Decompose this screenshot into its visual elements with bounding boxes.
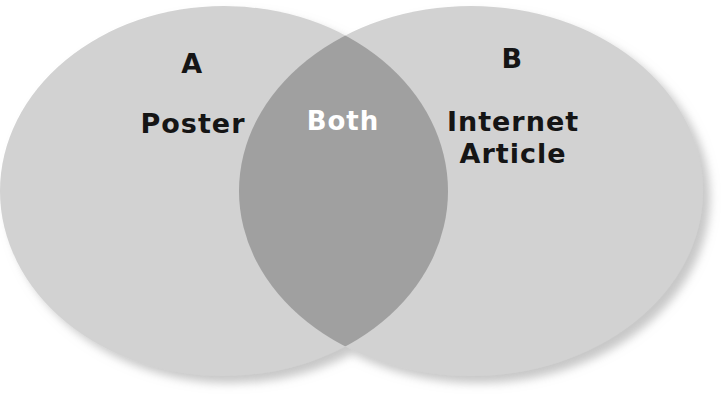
venn-diagram: A B Poster Both Internet Article (0, 0, 724, 395)
set-a-name: Poster (118, 108, 268, 140)
intersection-label: Both (288, 106, 398, 137)
set-a-letter: A (142, 48, 242, 80)
set-b-letter: B (462, 43, 562, 75)
venn-shapes (0, 0, 724, 395)
set-b-name: Internet Article (428, 106, 598, 170)
